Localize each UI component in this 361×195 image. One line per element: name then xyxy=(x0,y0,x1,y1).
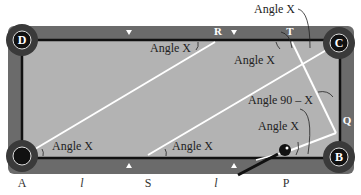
pocket-b: B xyxy=(323,141,355,173)
bottom-label-length-2: l xyxy=(214,176,217,191)
angle-label-right: Angle 90 – X xyxy=(248,93,313,107)
bottom-label-p: P xyxy=(283,176,290,191)
angle-label-bottom-right: Angle X xyxy=(258,119,299,133)
angle-label-bottom-left: Angle X xyxy=(52,139,93,153)
angle-label-top-left: Angle X xyxy=(150,41,191,55)
rail-point-q: Q xyxy=(343,114,352,126)
angle-label-top-right-lower: Angle X xyxy=(234,53,275,67)
cue-ball xyxy=(279,144,291,156)
pool-table-diagram: D C B R T Q Angle X Angle X Angle X Angl… xyxy=(0,0,361,195)
pocket-a xyxy=(6,140,38,172)
rail-point-t: T xyxy=(286,25,294,37)
angle-label-top-right-upper: Angle X xyxy=(254,2,295,16)
pocket-label-c: C xyxy=(335,36,344,50)
pocket-label-b: B xyxy=(335,150,343,164)
bottom-label-length-1: l xyxy=(80,176,83,191)
bottom-label-a: A xyxy=(18,176,27,191)
rail-point-r: R xyxy=(214,25,223,37)
pocket-label-d: D xyxy=(18,33,27,47)
pocket-c: C xyxy=(323,27,355,59)
ball-highlight xyxy=(286,147,289,150)
pocket-d: D xyxy=(6,24,38,56)
angle-label-bottom-middle: Angle X xyxy=(172,139,213,153)
bottom-label-s: S xyxy=(145,176,152,191)
